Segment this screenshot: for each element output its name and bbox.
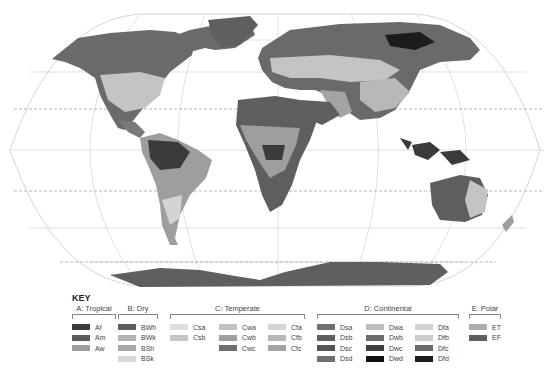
legend-item-dwc: Dwc [366,343,407,354]
swatch-dfa [415,324,433,330]
key-title: KEY [72,293,91,303]
legend-bracket [317,314,459,319]
swatch-bwh [118,324,136,330]
swatch-dwa [366,324,384,330]
swatch-cwa [219,324,237,330]
legend-group-title: E: Polar [469,304,501,313]
swatch-dsb [317,335,335,341]
legend-item-am: Am [72,333,113,344]
swatch-cfa [268,324,286,330]
swatch-dwc [366,345,384,351]
world-climate-map [0,0,556,300]
legend-group-title: A: Tropical [72,304,116,313]
legend-item-cwa: Cwa [219,322,260,333]
legend-item-dfc: Dfc [415,343,456,354]
legend-item-dsa: Dsa [317,322,358,333]
legend-item-csa: Csa [170,322,211,333]
legend-item-aw: Aw [72,343,113,354]
legend-item-dfa: Dfa [415,322,456,333]
swatch-dfb [415,335,433,341]
legend-group-title: C: Temperate [170,304,305,313]
legend-item-bwk: BWk [118,333,159,344]
legend-group-title: D: Continental [317,304,459,313]
swatch-dsd [317,356,335,362]
swatch-dfd [415,356,433,362]
swatch-cwb [219,335,237,341]
legend-group-continental: D: Continental Dsa Dsb Dsc Dsd Dwa Dwb D… [317,304,459,364]
legend-group-dry: B: Dry BWh BWk BSh BSk [118,304,158,364]
legend-item-cwc: Cwc [219,343,260,354]
swatch-am [72,335,90,341]
legend-bracket [118,314,158,319]
legend-group-polar: E: Polar ET EF [469,304,501,343]
legend-group-temperate: C: Temperate Csa Csb Cwa Cwb Cwc Cfa Cfb… [170,304,305,354]
legend-item-bwh: BWh [118,322,159,333]
legend-item-cfc: Cfc [268,343,309,354]
swatch-cfc [268,345,286,351]
legend-item-dsc: Dsc [317,343,358,354]
legend-item-cfa: Cfa [268,322,309,333]
legend-item-dsb: Dsb [317,333,358,344]
swatch-csa [170,324,188,330]
legend-item-bsh: BSh [118,343,159,354]
swatch-dwd [366,356,384,362]
legend-bracket [469,314,501,319]
legend-item-bsk: BSk [118,354,159,365]
swatch-dsa [317,324,335,330]
legend-item-cfb: Cfb [268,333,309,344]
swatch-aw [72,345,90,351]
swatch-bsh [118,345,136,351]
legend-item-dwd: Dwd [366,354,407,365]
swatch-af [72,324,90,330]
legend-item-dwb: Dwb [366,333,407,344]
swatch-cwc [219,345,237,351]
legend-item-et: ET [469,322,510,333]
swatch-ef [469,335,487,341]
swatch-dfc [415,345,433,351]
swatch-bwk [118,335,136,341]
legend-group-tropical: A: Tropical Af Am Aw [72,304,116,354]
legend-item-dfd: Dfd [415,354,456,365]
legend-item-dsd: Dsd [317,354,358,365]
legend-item-dwa: Dwa [366,322,407,333]
legend-bracket [170,314,305,319]
legend-item-dfb: Dfb [415,333,456,344]
legend-item-csb: Csb [170,333,211,344]
swatch-dwb [366,335,384,341]
legend-item-cwb: Cwb [219,333,260,344]
legend-item-ef: EF [469,333,510,344]
swatch-et [469,324,487,330]
swatch-bsk [118,356,136,362]
legend-bracket [72,314,116,319]
legend-group-title: B: Dry [118,304,158,313]
swatch-cfb [268,335,286,341]
swatch-dsc [317,345,335,351]
swatch-csb [170,335,188,341]
legend-item-af: Af [72,322,113,333]
